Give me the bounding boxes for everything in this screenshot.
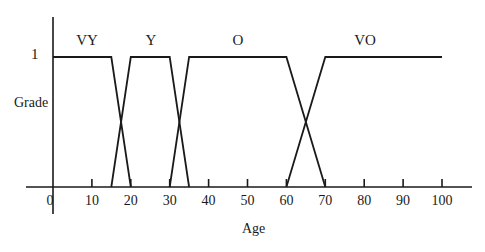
x-tick-label-10: 10 [85, 194, 99, 208]
membership-curve-o [170, 57, 326, 187]
set-label-o: O [233, 33, 244, 48]
x-tick-label-80: 80 [357, 194, 371, 208]
x-tick-label-90: 90 [396, 194, 410, 208]
x-tick-label-40: 40 [202, 194, 216, 208]
x-tick-label-100: 100 [432, 194, 453, 208]
x-tick-label-30: 30 [163, 194, 177, 208]
set-label-vy: VY [76, 33, 98, 48]
x-tick-label-60: 60 [279, 194, 293, 208]
membership-curve-vo [286, 57, 442, 187]
x-axis-label: Age [242, 222, 265, 236]
x-tick-label-50: 50 [241, 194, 255, 208]
x-tick-label-20: 20 [124, 194, 138, 208]
set-label-vo: VO [354, 33, 376, 48]
set-label-y: Y [146, 33, 157, 48]
x-tick-label-0: 0 [47, 194, 54, 208]
y-axis-label: Grade [14, 96, 48, 110]
x-tick-label-70: 70 [318, 194, 332, 208]
y-tick-label-1: 1 [31, 47, 39, 62]
membership-curve-y [111, 57, 189, 187]
membership-curves [53, 57, 442, 187]
membership-curve-vy [53, 57, 131, 187]
